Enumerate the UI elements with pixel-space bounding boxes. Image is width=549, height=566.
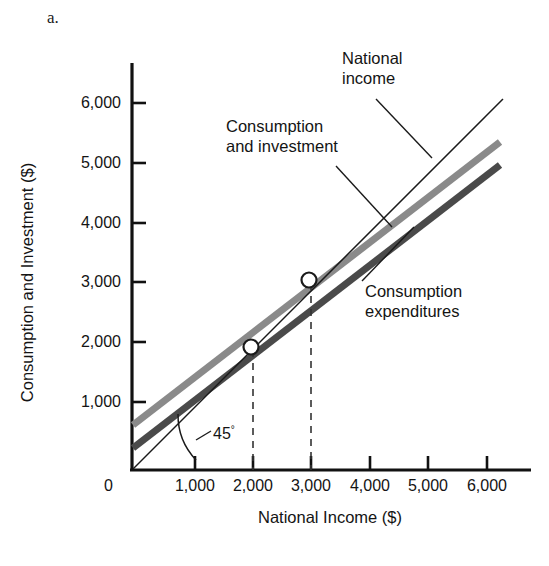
leader-consumption-expenditures: [362, 227, 414, 281]
annotation-angle-45: 45°: [213, 420, 235, 444]
x-tick-label-6000: 6,000: [452, 477, 522, 495]
annotation-national-income: National income: [342, 48, 403, 88]
degree-symbol-icon: °: [231, 424, 235, 435]
y-tick-label-6000: 6,000: [51, 94, 121, 112]
annotation-consumption-and-investment: Consumption and investment: [226, 116, 338, 156]
x-tick-marks: [195, 456, 487, 470]
annotation-national-income-line1: National: [342, 48, 403, 68]
y-tick-label-3000: 3,000: [51, 273, 121, 291]
y-tick-label-4000: 4,000: [51, 214, 121, 232]
annotation-consumption-and-investment-line2: and investment: [226, 136, 338, 156]
annotation-consumption-expenditures-line2: expenditures: [365, 301, 462, 321]
annotation-angle-value: 45: [213, 425, 231, 442]
annotation-consumption-expenditures: Consumption expenditures: [365, 281, 462, 321]
annotation-consumption-expenditures-line1: Consumption: [365, 281, 462, 301]
x-axis-title: National Income ($): [130, 508, 530, 527]
annotation-consumption-and-investment-line1: Consumption: [226, 116, 338, 136]
y-tick-label-1000: 1,000: [51, 393, 121, 411]
annotation-national-income-line2: income: [342, 68, 403, 88]
leader-consumption-and-investment: [336, 166, 392, 227]
figure-panel-a: a.: [0, 0, 549, 566]
y-axis-title: Consumption and Investment ($): [18, 118, 37, 448]
y-tick-label-5000: 5,000: [51, 154, 121, 172]
angle-leader: [196, 431, 211, 440]
marker-point-2000: [244, 340, 259, 355]
x-tick-label-0: 0: [104, 477, 113, 495]
marker-point-3000: [302, 273, 317, 288]
leader-national-income: [376, 99, 432, 158]
y-tick-marks: [132, 103, 146, 402]
y-tick-label-2000: 2,000: [51, 333, 121, 351]
